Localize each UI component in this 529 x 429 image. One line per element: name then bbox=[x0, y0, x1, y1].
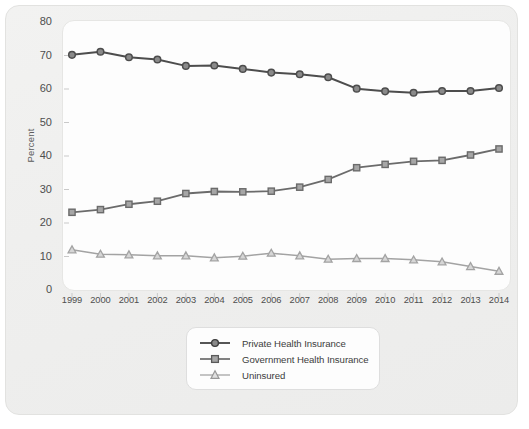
legend-label-uninsured: Uninsured bbox=[242, 370, 285, 381]
x-tick-label: 2014 bbox=[479, 296, 519, 305]
legend-label-government: Government Health Insurance bbox=[242, 354, 369, 365]
y-axis-title: Percent bbox=[25, 106, 36, 186]
chart-legend: Private Health Insurance Government Heal… bbox=[186, 327, 380, 390]
legend-item-government[interactable]: Government Health Insurance bbox=[187, 351, 379, 367]
chart-figure: 01020304050607080 1999200020012002200320… bbox=[0, 0, 529, 429]
legend-item-private[interactable]: Private Health Insurance bbox=[187, 335, 379, 351]
legend-swatch-triangle-icon bbox=[198, 368, 232, 382]
legend-item-uninsured[interactable]: Uninsured bbox=[187, 367, 379, 383]
legend-label-private: Private Health Insurance bbox=[242, 338, 346, 349]
legend-swatch-circle-icon bbox=[198, 336, 232, 350]
legend-swatch-square-icon bbox=[198, 352, 232, 366]
